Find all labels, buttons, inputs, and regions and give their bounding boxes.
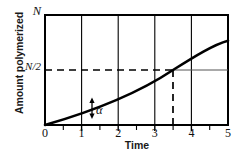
alpha-annotation-label: α (96, 103, 103, 118)
x-axis-title: Time (45, 139, 229, 151)
chart-figure: N N/2 Amount polymerized 0 1 2 3 4 5 Tim… (0, 0, 242, 155)
y-axis-title: Amount polymerized (13, 0, 25, 128)
